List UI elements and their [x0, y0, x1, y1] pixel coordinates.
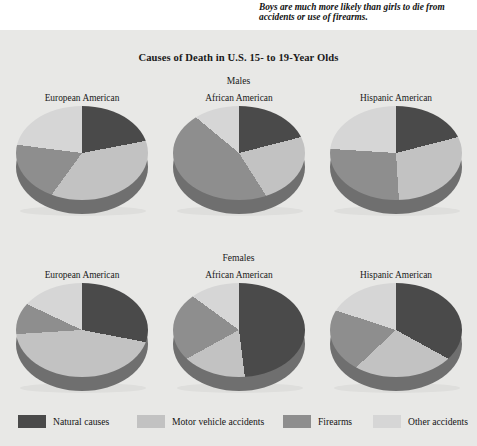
- legend-item-natural-causes: Natural causes: [18, 411, 109, 431]
- pie-panel-females-african-american: African American: [163, 269, 315, 391]
- pie-title: European American: [6, 92, 158, 104]
- pie-chart: [16, 106, 148, 214]
- section-label-males: Males: [0, 75, 477, 86]
- legend-item-other-accidents: Other accidents: [373, 411, 468, 431]
- legend-swatch: [283, 415, 311, 428]
- pie-panel-males-hispanic-american: Hispanic American: [320, 92, 472, 214]
- legend-label: Motor vehicle accidents: [172, 416, 264, 427]
- pie-top: [16, 106, 148, 200]
- legend-swatch: [373, 415, 401, 428]
- legend-swatch: [18, 415, 46, 428]
- pie-title: European American: [6, 269, 158, 281]
- legend-swatch: [137, 415, 165, 428]
- pie-top: [173, 283, 305, 377]
- pie-chart: [173, 106, 305, 214]
- chart-figure-panel: Causes of Death in U.S. 15- to 19-Year O…: [0, 30, 477, 446]
- caption-callout-box: Boys are much more likely than girls to …: [253, 0, 477, 30]
- pie-chart: [173, 283, 305, 391]
- legend-item-motor-vehicle-accidents: Motor vehicle accidents: [137, 411, 264, 431]
- pie-top: [330, 283, 462, 377]
- pie-top: [330, 106, 462, 200]
- pie-title: Hispanic American: [320, 92, 472, 104]
- pie-top: [173, 106, 305, 200]
- pie-top: [16, 283, 148, 377]
- pie-title: African American: [163, 92, 315, 104]
- legend-label: Firearms: [318, 416, 352, 427]
- pie-chart: [330, 283, 462, 391]
- chart-title: Causes of Death in U.S. 15- to 19-Year O…: [0, 52, 477, 63]
- pie-panel-females-european-american: European American: [6, 269, 158, 391]
- pie-panel-females-hispanic-american: Hispanic American: [320, 269, 472, 391]
- legend-label: Other accidents: [408, 416, 468, 427]
- pie-title: African American: [163, 269, 315, 281]
- caption-text: Boys are much more likely than girls to …: [259, 2, 469, 22]
- section-label-females: Females: [0, 252, 477, 263]
- pie-chart: [16, 283, 148, 391]
- chart-legend: Natural causes Motor vehicle accidents F…: [0, 411, 477, 441]
- pie-panel-males-african-american: African American: [163, 92, 315, 214]
- legend-item-firearms: Firearms: [283, 411, 352, 431]
- pie-title: Hispanic American: [320, 269, 472, 281]
- pie-panel-males-european-american: European American: [6, 92, 158, 214]
- legend-label: Natural causes: [53, 416, 109, 427]
- pie-chart: [330, 106, 462, 214]
